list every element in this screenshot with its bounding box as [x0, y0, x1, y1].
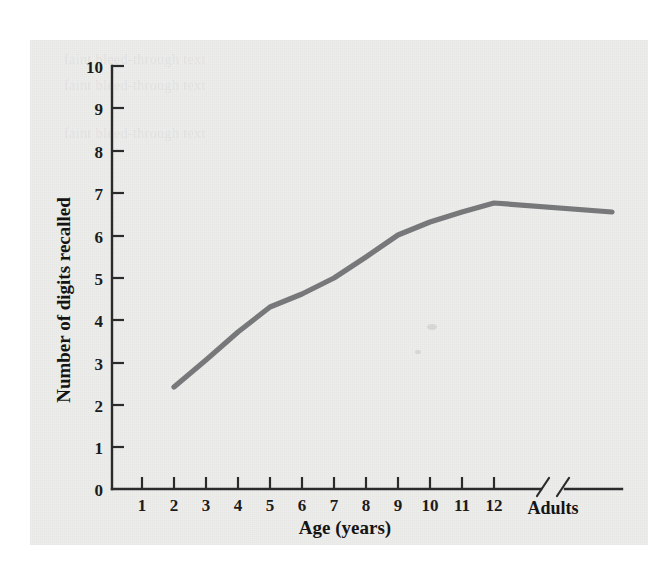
y-tick-label-6: 6	[95, 228, 104, 247]
x-tick-label-9: 9	[394, 496, 403, 515]
data-series-line	[174, 203, 612, 387]
y-tick-label-2: 2	[95, 397, 104, 416]
x-tick-label-1: 1	[138, 496, 147, 515]
x-tick-label-4: 4	[234, 496, 243, 515]
y-tick-label-10: 10	[86, 58, 103, 77]
x-tick-label-12: 12	[486, 496, 503, 515]
y-tick-label-9: 9	[95, 100, 104, 119]
axis-break-slash-2	[557, 478, 569, 496]
paper-smudge	[427, 324, 437, 330]
paper-smudge	[415, 350, 421, 354]
x-tick-label-8: 8	[362, 496, 371, 515]
x-tick-label-11: 11	[454, 496, 470, 515]
x-tick-label-7: 7	[330, 496, 339, 515]
y-tick-label-7: 7	[95, 185, 104, 204]
x-axis-ticks	[142, 477, 494, 489]
x-tick-label-3: 3	[202, 496, 211, 515]
y-tick-label-1: 1	[95, 439, 104, 458]
y-tick-label-8: 8	[95, 143, 104, 162]
y-tick-label-4: 4	[95, 312, 104, 331]
x-tick-label-2: 2	[170, 496, 179, 515]
axis-break-slash-1	[537, 478, 549, 496]
x-axis-title: Age (years)	[299, 517, 391, 539]
x-tick-label-5: 5	[266, 496, 275, 515]
x-tick-label-adults: Adults	[527, 498, 578, 518]
y-axis-title: Number of digits recalled	[53, 197, 74, 403]
y-tick-label-0: 0	[95, 481, 104, 500]
y-tick-label-3: 3	[95, 355, 104, 374]
line-chart: 10 9 8 7 6 5 4 3 2 1 0 1 2 3 4 5	[0, 0, 668, 582]
x-tick-label-10: 10	[422, 496, 439, 515]
x-tick-label-6: 6	[298, 496, 307, 515]
y-tick-label-5: 5	[95, 270, 104, 289]
figure-page: faint bleed-through text faint bleed-thr…	[0, 0, 668, 582]
y-axis-ticks	[112, 66, 124, 447]
